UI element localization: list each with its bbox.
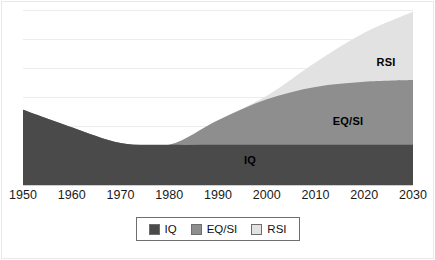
plot-area [23, 10, 413, 185]
x-tick-label: 2020 [350, 188, 378, 202]
stacked-area-chart: IQ EQ/SI RSI 195019601970198019902000201… [0, 0, 435, 260]
chart-legend: IQEQ/SIRSI [136, 217, 300, 241]
area-series-group [23, 10, 413, 185]
series-label-rsi: RSI [377, 56, 396, 68]
x-tick-label: 2030 [399, 188, 427, 202]
legend-swatch-icon [251, 224, 262, 235]
x-tick-label: 1950 [9, 188, 37, 202]
x-tick-label: 2000 [253, 188, 281, 202]
legend-swatch-icon [191, 224, 202, 235]
legend-item-eq-si[interactable]: EQ/SI [191, 223, 238, 235]
x-axis-line [23, 185, 413, 186]
legend-label: RSI [267, 223, 286, 235]
legend-label: IQ [165, 223, 177, 235]
x-axis-tick-labels: 195019601970198019902000201020202030 [0, 188, 435, 208]
x-tick-label: 1990 [204, 188, 232, 202]
x-tick-label: 1960 [58, 188, 86, 202]
x-tick-label: 1980 [155, 188, 183, 202]
legend-item-iq[interactable]: IQ [149, 223, 177, 235]
series-label-eqsi: EQ/SI [333, 115, 363, 127]
legend-swatch-icon [149, 224, 160, 235]
x-tick-label: 1970 [107, 188, 135, 202]
series-label-iq: IQ [244, 154, 256, 166]
x-tick-label: 2010 [302, 188, 330, 202]
legend-label: EQ/SI [207, 223, 238, 235]
legend-item-rsi[interactable]: RSI [251, 223, 286, 235]
